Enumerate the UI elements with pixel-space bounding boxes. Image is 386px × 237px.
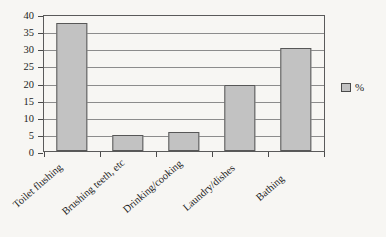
y-tick-label: 35 xyxy=(24,28,35,38)
bar-brushing-teeth[interactable] xyxy=(112,135,143,151)
x-tick-mark xyxy=(268,152,269,157)
y-axis: 40 35 30 25 20 15 10 5 0 xyxy=(0,8,43,159)
y-tick-label: 30 xyxy=(24,45,35,55)
bar-slot xyxy=(268,16,324,151)
x-tick-mark xyxy=(324,152,325,157)
bar-bathing[interactable] xyxy=(280,48,311,151)
y-tick-label: 25 xyxy=(24,62,35,72)
y-tick-mark xyxy=(38,67,43,68)
y-tick-mark xyxy=(38,102,43,103)
y-tick-mark xyxy=(38,136,43,137)
x-tick-label-drinking-cooking: Drinking/cooking xyxy=(121,158,185,215)
x-tick-mark xyxy=(44,152,45,157)
x-tick-label-brushing-teeth: Brushing teeth, etc xyxy=(60,157,127,217)
bar-toilet-flushing[interactable] xyxy=(56,23,87,151)
y-tick-label: 20 xyxy=(24,80,35,90)
y-tick-label: 0 xyxy=(29,148,34,158)
bar-drinking-cooking[interactable] xyxy=(168,132,199,151)
y-tick-label: 15 xyxy=(24,97,35,107)
x-tick-label-laundry-dishes: Laundry/dishes xyxy=(181,162,237,213)
bars-layer xyxy=(44,16,324,151)
legend-label: % xyxy=(355,82,364,93)
y-tick-mark xyxy=(38,85,43,86)
y-tick-mark xyxy=(38,119,43,120)
x-tick-label-toilet-flushing: Toilet flushing xyxy=(11,161,65,210)
bar-slot xyxy=(156,16,212,151)
x-tick-mark xyxy=(100,152,101,157)
y-tick-mark xyxy=(38,50,43,51)
y-tick-label: 40 xyxy=(24,11,35,21)
y-tick-mark xyxy=(38,153,43,154)
x-tick-label-bathing: Bathing xyxy=(254,173,286,203)
legend-swatch-icon xyxy=(341,83,351,92)
bar-chart: 40 35 30 25 20 15 10 5 0 xyxy=(0,0,386,237)
x-tick-mark xyxy=(212,152,213,157)
x-tick-mark xyxy=(156,152,157,157)
y-tick-label: 5 xyxy=(29,131,34,141)
bar-slot xyxy=(44,16,100,151)
y-tick-mark xyxy=(38,33,43,34)
bar-laundry-dishes[interactable] xyxy=(224,85,255,151)
y-tick-label: 10 xyxy=(24,114,35,124)
bar-slot xyxy=(100,16,156,151)
legend: % xyxy=(341,82,364,93)
bar-slot xyxy=(212,16,268,151)
y-tick-mark xyxy=(38,16,43,17)
